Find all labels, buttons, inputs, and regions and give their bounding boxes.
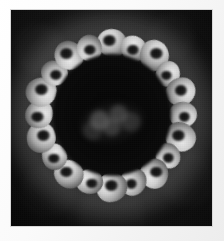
rim-lobe-core (179, 112, 191, 122)
rim-lobe-core (48, 154, 59, 164)
rim-lobe-core (35, 84, 48, 95)
rim-lobe-core (105, 180, 118, 191)
specimen (26, 27, 198, 203)
rim-lobe-core (175, 85, 188, 96)
photographic-plate (11, 10, 212, 226)
rim-lobe-core (172, 130, 185, 141)
image-page: Grayscale micrograph of a roughly circul… (0, 0, 224, 241)
rim-lobe-core (161, 71, 172, 80)
rim-lobe-core (163, 153, 174, 162)
rim-lobe-core (150, 48, 163, 59)
